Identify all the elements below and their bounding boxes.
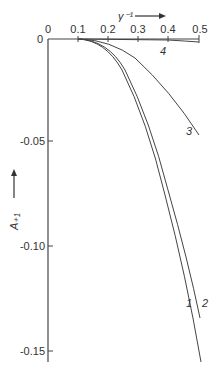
chart: 0 0.1 0.2 0.3 0.4 0.5 0 -0.05 -0.10 -0.1… [0, 0, 219, 372]
svg-text:4: 4 [160, 45, 166, 57]
svg-text:0.1: 0.1 [70, 23, 85, 35]
svg-text:-0.10: -0.10 [20, 240, 45, 252]
svg-text:0.4: 0.4 [160, 23, 175, 35]
curve-1 [78, 39, 201, 362]
curve-2 [78, 39, 200, 318]
svg-text:-0.15: -0.15 [20, 345, 45, 357]
svg-text:0: 0 [45, 23, 51, 35]
x-axis-label: γ⁻¹ [118, 10, 166, 22]
svg-text:-0.05: -0.05 [20, 135, 45, 147]
y-tick-labels: 0 -0.05 -0.10 -0.15 [20, 33, 45, 357]
curve-3 [80, 39, 199, 135]
svg-text:3: 3 [186, 125, 193, 137]
svg-text:0.3: 0.3 [130, 23, 145, 35]
curve-labels: 1 2 3 4 [160, 45, 208, 309]
x-tick-labels: 0 0.1 0.2 0.3 0.4 0.5 [45, 23, 208, 35]
svg-text:1: 1 [186, 297, 192, 309]
svg-text:0.2: 0.2 [100, 23, 115, 35]
svg-text:γ⁻¹: γ⁻¹ [118, 10, 134, 22]
svg-text:2: 2 [201, 297, 208, 309]
svg-text:0.5: 0.5 [192, 23, 207, 35]
svg-text:A₊₁: A₊₁ [8, 213, 20, 231]
svg-text:0: 0 [37, 33, 43, 45]
y-axis-label: A₊₁ [8, 169, 20, 231]
y-ticks [48, 141, 53, 351]
